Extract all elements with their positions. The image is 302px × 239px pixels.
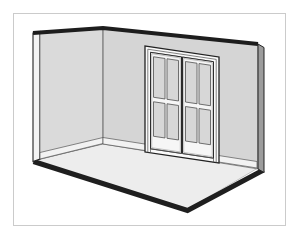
glass-pane: [167, 59, 179, 101]
glass-pane: [167, 104, 179, 140]
glass-pane: [199, 64, 211, 106]
room-illustration: [0, 0, 302, 239]
glass-pane: [154, 102, 166, 138]
left-wall-cut-edge: [33, 32, 40, 162]
back-wall-end-cap: [258, 44, 264, 173]
glass-pane: [199, 109, 211, 145]
glass-pane: [154, 57, 166, 99]
glass-pane: [186, 62, 198, 104]
left-wall: [40, 28, 103, 159]
french-double-door: [145, 46, 219, 163]
glass-pane: [186, 107, 198, 143]
